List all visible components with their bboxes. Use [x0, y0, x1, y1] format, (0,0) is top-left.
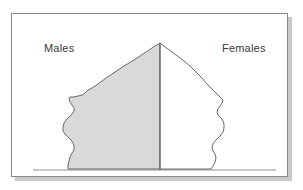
males-label: Males	[44, 42, 74, 54]
females-label: Females	[222, 42, 266, 54]
population-pyramid-figure: Males Females	[0, 0, 303, 190]
pyramid-chart-canvas	[0, 0, 303, 190]
